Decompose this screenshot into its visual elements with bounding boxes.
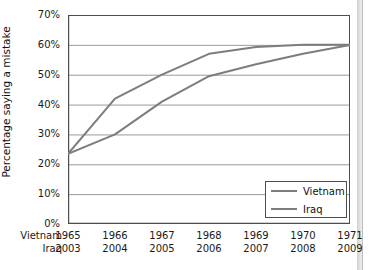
chart-figure: Percentage saying a mistake 0%10%20%30%4… bbox=[0, 0, 369, 270]
x-tick-label-iraq-2004: 2004 bbox=[95, 243, 135, 255]
y-tick-label-70: 70% bbox=[0, 10, 60, 20]
x-tick-label-vietnam-1965: 1965 bbox=[48, 230, 88, 242]
legend-label-vietnam: Vietnam bbox=[303, 186, 345, 197]
series-line-iraq bbox=[68, 45, 350, 154]
x-tick-label-iraq-2008: 2008 bbox=[283, 243, 323, 255]
legend-item-vietnam[interactable]: Vietnam bbox=[266, 182, 346, 200]
x-tick-label-iraq-2005: 2005 bbox=[142, 243, 182, 255]
y-tick-label-20: 20% bbox=[0, 159, 60, 169]
y-tick-label-30: 30% bbox=[0, 129, 60, 139]
series-line-vietnam bbox=[68, 45, 350, 154]
x-tick-label-iraq-2009: 2009 bbox=[330, 243, 369, 255]
chart-legend[interactable]: Vietnam Iraq bbox=[265, 181, 347, 218]
plot-area: Vietnam Iraq bbox=[68, 15, 350, 224]
x-tick-label-vietnam-1969: 1969 bbox=[236, 230, 276, 242]
x-tick-label-iraq-2006: 2006 bbox=[189, 243, 229, 255]
legend-item-iraq[interactable]: Iraq bbox=[266, 200, 346, 218]
legend-swatch-iraq bbox=[271, 208, 297, 210]
x-tick-label-vietnam-1971: 1971 bbox=[330, 230, 369, 242]
legend-swatch-vietnam bbox=[271, 190, 297, 192]
x-tick-label-vietnam-1970: 1970 bbox=[283, 230, 323, 242]
x-tick-label-vietnam-1968: 1968 bbox=[189, 230, 229, 242]
y-tick-label-60: 60% bbox=[0, 40, 60, 50]
x-tick-label-vietnam-1966: 1966 bbox=[95, 230, 135, 242]
y-tick-label-40: 40% bbox=[0, 100, 60, 110]
x-tick-label-vietnam-1967: 1967 bbox=[142, 230, 182, 242]
x-tick-label-iraq-2007: 2007 bbox=[236, 243, 276, 255]
x-tick-label-iraq-2003: 2003 bbox=[48, 243, 88, 255]
y-tick-label-50: 50% bbox=[0, 70, 60, 80]
y-tick-label-10: 10% bbox=[0, 189, 60, 199]
legend-label-iraq: Iraq bbox=[303, 204, 323, 215]
y-tick-label-0: 0% bbox=[0, 219, 60, 229]
